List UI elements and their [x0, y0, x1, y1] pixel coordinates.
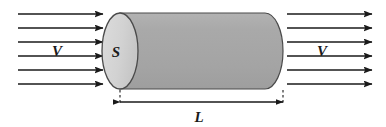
diagram-canvas: V V S L [0, 0, 386, 127]
cylinder-shape [102, 13, 283, 89]
cylinder-body [120, 13, 283, 89]
length-dimension [120, 90, 283, 104]
cylinder-flow-diagram: V V S L [0, 0, 386, 127]
cross-section-area-label: S [112, 44, 120, 60]
length-label: L [193, 109, 203, 125]
flow-arrows-right-group [287, 14, 372, 84]
